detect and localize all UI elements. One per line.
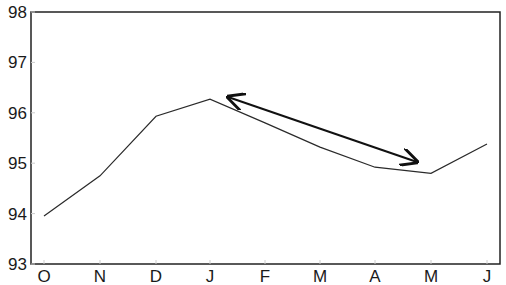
x-tick-label: M (424, 267, 438, 285)
x-tick-label: O (37, 267, 50, 285)
y-tick-label: 95 (8, 154, 27, 173)
x-tick-label: M (313, 267, 327, 285)
x-tick-label: N (94, 267, 106, 285)
x-tick-label: D (150, 267, 162, 285)
line-chart: 939495969798 ONDJFMAMJ (0, 0, 506, 285)
x-tick-label: J (206, 267, 215, 285)
x-tick-label: F (260, 267, 270, 285)
plot-frame (31, 12, 500, 264)
y-tick-label: 93 (8, 255, 27, 274)
y-tick-label: 94 (8, 205, 27, 224)
y-tick-label: 98 (8, 3, 27, 22)
y-tick-label: 96 (8, 104, 27, 123)
data-line (44, 99, 487, 216)
x-tick-label: A (369, 267, 381, 285)
x-tick-label: J (483, 267, 492, 285)
double-arrow-annotation (228, 97, 417, 162)
y-tick-label: 97 (8, 53, 27, 72)
